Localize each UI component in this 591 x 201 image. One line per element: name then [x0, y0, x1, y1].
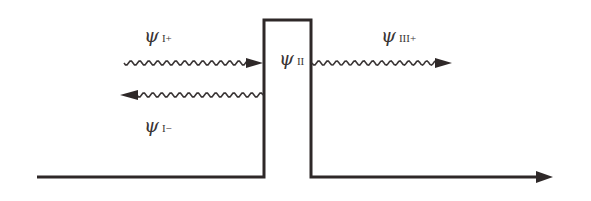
label-psi-reflected: ψI− — [144, 114, 172, 136]
subscript: II — [297, 55, 304, 67]
subscript: I− — [162, 122, 172, 134]
axis-arrowhead-icon — [536, 171, 553, 183]
barrier-diagram — [0, 0, 591, 201]
reflected-wave — [137, 93, 263, 97]
psi-symbol: ψ — [144, 114, 159, 136]
transmitted-wave — [312, 61, 436, 65]
label-psi-barrier: ψII — [279, 47, 304, 69]
psi-symbol: ψ — [144, 24, 159, 46]
reflected-arrowhead-icon — [120, 90, 138, 100]
label-psi-incident: ψI+ — [144, 24, 172, 46]
psi-symbol: ψ — [279, 47, 294, 69]
label-psi-transmitted: ψIII+ — [381, 24, 416, 46]
transmitted-arrowhead-icon — [435, 58, 452, 68]
incident-arrowhead-icon — [246, 58, 263, 68]
subscript: III+ — [399, 32, 416, 44]
subscript: I+ — [162, 32, 172, 44]
potential-profile — [37, 20, 540, 177]
incident-wave — [124, 61, 247, 65]
psi-symbol: ψ — [381, 24, 396, 46]
